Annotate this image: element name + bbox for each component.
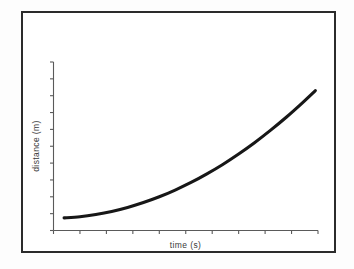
distance-time-curve [64,91,315,218]
figure-root: time (s) distance (m) [0,0,354,269]
x-axis-label: time (s) [170,240,202,250]
y-axis-label: distance (m) [31,120,41,172]
plot-canvas: time (s) distance (m) [0,0,354,269]
